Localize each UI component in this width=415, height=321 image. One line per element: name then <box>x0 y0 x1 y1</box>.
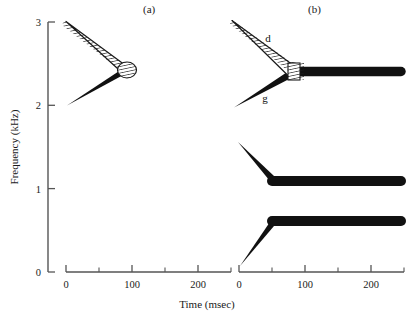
panel-label-b: (b) <box>308 3 321 15</box>
x-axis-panel-a: 0 100 200 <box>63 265 231 290</box>
curve-label-d: d <box>265 32 271 44</box>
formant-a-rising-transition <box>67 67 126 106</box>
panel-b-formants <box>224 14 401 266</box>
formant-b-f3-locus-hatch <box>286 60 304 82</box>
y-tick-label-2: 2 <box>36 100 41 111</box>
spectrogram-figure: 3 2 1 0 Frequency (kHz) 0 100 200 <box>0 0 415 321</box>
x-tick-label-a-100: 100 <box>124 279 140 290</box>
panel-label-a: (a) <box>143 3 155 15</box>
x-tick-label-a-0: 0 <box>63 279 68 290</box>
y-axis-title: Frequency (kHz) <box>8 109 21 184</box>
x-tick-label-b-100: 100 <box>297 279 313 290</box>
y-tick-label-1: 1 <box>36 184 41 195</box>
x-tick-label-b-200: 200 <box>363 279 379 290</box>
x-tick-label-a-200: 200 <box>190 279 206 290</box>
y-axis: 3 2 1 0 Frequency (kHz) <box>8 17 55 278</box>
figure-container: 3 2 1 0 Frequency (kHz) 0 100 200 <box>0 0 415 321</box>
formant-b-f2-transition <box>238 142 274 186</box>
x-tick-label-b-0: 0 <box>236 279 241 290</box>
y-tick-label-0: 0 <box>36 267 41 278</box>
curve-label-g: g <box>262 92 268 104</box>
x-axis-title: Time (msec) <box>179 298 235 311</box>
y-tick-label-3: 3 <box>36 17 41 28</box>
panel-a-formants <box>58 16 140 106</box>
